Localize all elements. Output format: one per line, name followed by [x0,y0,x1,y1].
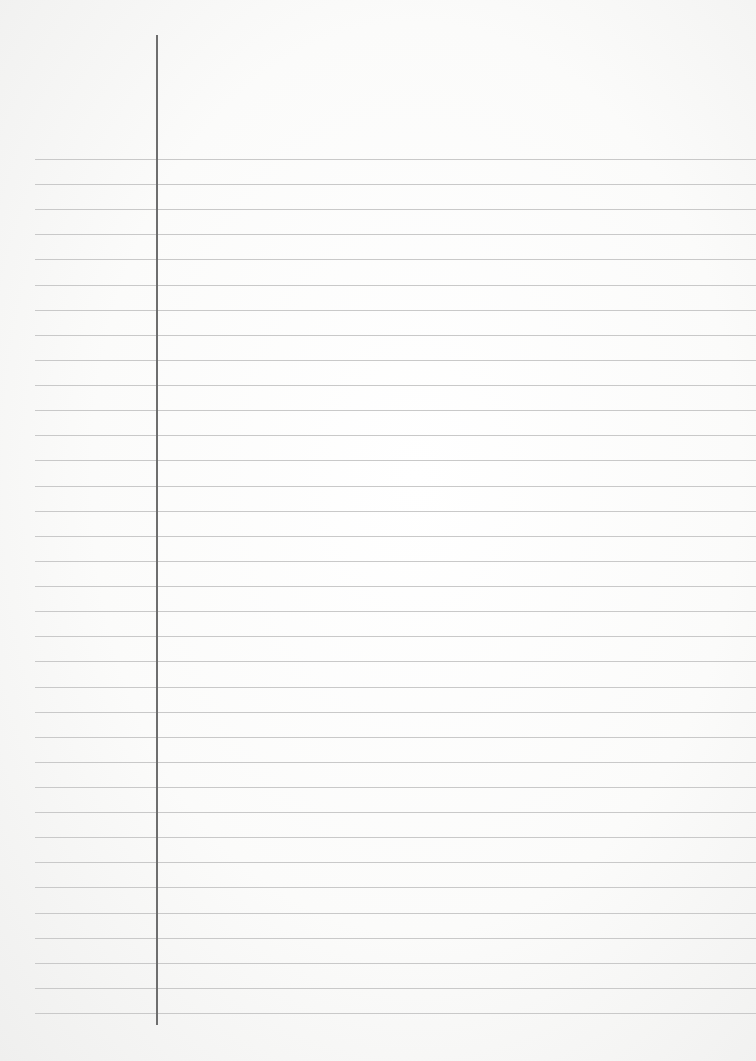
ruled-line [35,812,756,813]
ruled-line [35,285,756,286]
ruled-line [35,486,756,487]
ruled-line [35,787,756,788]
ruled-line [35,159,756,160]
ruled-line [35,862,756,863]
ruled-line [35,611,756,612]
ruled-line [35,184,756,185]
ruled-line [35,586,756,587]
ruled-line [35,435,756,436]
ruled-line [35,837,756,838]
ruled-line [35,636,756,637]
ruled-line [35,360,756,361]
ruled-line [35,661,756,662]
ruled-line [35,913,756,914]
ruled-line [35,209,756,210]
ruled-line [35,460,756,461]
ruled-line [35,737,756,738]
ruled-line [35,963,756,964]
ruled-line [35,887,756,888]
ruled-line [35,536,756,537]
notebook-page [0,0,756,1061]
ruled-line [35,310,756,311]
ruled-line [35,410,756,411]
ruled-line [35,938,756,939]
ruled-line [35,1013,756,1014]
margin-line [156,35,158,1025]
ruled-line [35,335,756,336]
ruled-line [35,712,756,713]
ruled-line [35,385,756,386]
ruled-line [35,762,756,763]
ruled-line [35,234,756,235]
ruled-line [35,561,756,562]
ruled-line [35,687,756,688]
ruled-line [35,511,756,512]
ruled-line [35,259,756,260]
ruled-line [35,988,756,989]
